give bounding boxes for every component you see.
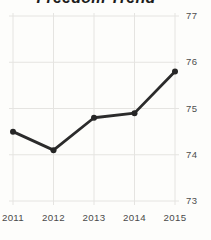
x-tick-label-2015: 2015 — [155, 212, 195, 223]
y-tick-label-74: 74 — [186, 150, 210, 160]
data-point-2012 — [51, 147, 57, 153]
line-chart — [0, 0, 211, 240]
x-tick-label-2014: 2014 — [115, 212, 155, 223]
data-point-2013 — [91, 115, 97, 121]
data-point-2014 — [132, 110, 138, 116]
data-point-2015 — [172, 69, 178, 75]
chart-container: Freedom Trend 7776757473 201120122013201… — [0, 0, 211, 240]
y-tick-label-76: 76 — [186, 57, 210, 67]
y-tick-label-77: 77 — [186, 11, 210, 21]
y-tick-label-75: 75 — [186, 104, 210, 114]
x-tick-label-2013: 2013 — [74, 212, 114, 223]
x-tick-label-2011: 2011 — [0, 212, 33, 223]
data-point-2011 — [10, 129, 16, 135]
y-tick-label-73: 73 — [186, 196, 210, 206]
x-tick-label-2012: 2012 — [34, 212, 74, 223]
